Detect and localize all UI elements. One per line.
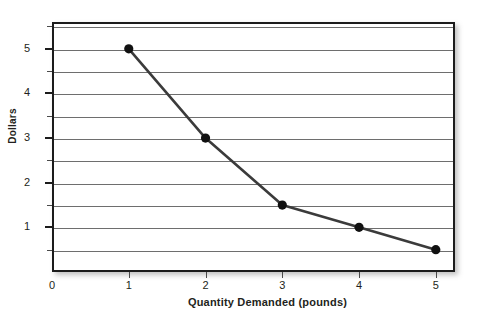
x-axis-tick-label: 5 — [423, 280, 449, 291]
y-axis-tick-label: 5 — [6, 43, 30, 54]
x-axis-tick — [206, 272, 207, 278]
gridline — [54, 184, 453, 185]
x-axis-tick — [436, 272, 437, 278]
y-axis-tick — [45, 226, 52, 228]
gridline — [54, 228, 453, 229]
x-axis-tick-label: 0 — [39, 280, 65, 291]
gridline — [54, 139, 453, 140]
gridline — [54, 117, 453, 118]
gridline — [54, 27, 453, 28]
y-axis-tick-minor — [47, 71, 52, 72]
y-axis-tick — [45, 48, 52, 50]
gridline — [54, 94, 453, 95]
gridline — [54, 50, 453, 51]
x-axis-tick-label: 1 — [116, 280, 142, 291]
y-axis-tick-minor — [47, 26, 52, 27]
gridline — [54, 206, 453, 207]
y-axis-tick — [45, 92, 52, 94]
y-axis-tick-label: 2 — [6, 177, 30, 188]
chart-figure: Dollars 12345 012345 Quantity Demanded (… — [0, 0, 485, 321]
gridline — [54, 72, 453, 73]
y-axis-tick-minor — [47, 205, 52, 206]
plot-frame — [52, 22, 455, 272]
x-axis-tick-label: 2 — [193, 280, 219, 291]
y-axis-tick-minor — [47, 116, 52, 117]
x-axis-tick-label: 3 — [269, 280, 295, 291]
x-axis-title: Quantity Demanded (pounds) — [0, 296, 485, 308]
plot-area — [54, 24, 453, 270]
y-axis-tick — [45, 137, 52, 139]
x-axis-tick — [359, 272, 360, 278]
y-axis-tick-label: 1 — [6, 221, 30, 232]
gridline — [54, 251, 453, 252]
gridline — [54, 161, 453, 162]
y-axis-tick-minor — [47, 250, 52, 251]
y-axis-tick-label: 4 — [6, 87, 30, 98]
y-axis-tick — [45, 182, 52, 184]
y-axis-tick-minor — [47, 160, 52, 161]
y-axis-tick-label: 3 — [6, 132, 30, 143]
x-axis-tick-label: 4 — [346, 280, 372, 291]
x-axis-tick — [129, 272, 130, 278]
x-axis-tick — [282, 272, 283, 278]
